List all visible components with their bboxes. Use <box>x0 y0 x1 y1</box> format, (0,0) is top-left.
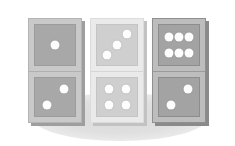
domino-middle-face-top-value-3 <box>96 24 138 66</box>
pip-icon <box>43 101 52 110</box>
domino-middle-half-top <box>91 19 143 71</box>
pip-icon <box>121 101 130 110</box>
pip-icon <box>175 32 184 41</box>
pip-icon <box>105 85 114 94</box>
pip-icon <box>175 48 184 57</box>
pip-icon <box>122 30 131 39</box>
domino-right-face-bottom-value-2 <box>158 77 200 118</box>
pip-icon <box>59 85 68 94</box>
domino-left[interactable] <box>28 18 82 123</box>
pip-icon <box>103 51 112 60</box>
domino-right-face-top-value-6 <box>158 24 200 66</box>
domino-right-body <box>152 18 206 123</box>
dominoes-scene <box>0 0 235 146</box>
pip-icon <box>113 40 122 49</box>
domino-right-half-bottom <box>153 71 205 123</box>
pip-icon <box>165 32 174 41</box>
pip-icon <box>185 48 194 57</box>
domino-middle-face-bottom-value-4 <box>96 77 138 118</box>
domino-middle[interactable] <box>90 18 144 123</box>
domino-middle-half-bottom <box>91 71 143 123</box>
pip-icon <box>165 48 174 57</box>
domino-left-body <box>28 18 82 123</box>
pip-icon <box>185 32 194 41</box>
domino-right-half-top <box>153 19 205 71</box>
domino-left-face-bottom-value-2 <box>34 77 76 118</box>
pip-icon <box>51 40 60 49</box>
domino-right[interactable] <box>152 18 206 123</box>
domino-middle-body <box>90 18 144 123</box>
pip-icon <box>105 101 114 110</box>
pip-icon <box>167 101 176 110</box>
domino-left-face-top-value-1 <box>34 24 76 66</box>
domino-left-half-top <box>29 19 81 71</box>
domino-left-half-bottom <box>29 71 81 123</box>
pip-icon <box>121 85 130 94</box>
pip-icon <box>183 85 192 94</box>
